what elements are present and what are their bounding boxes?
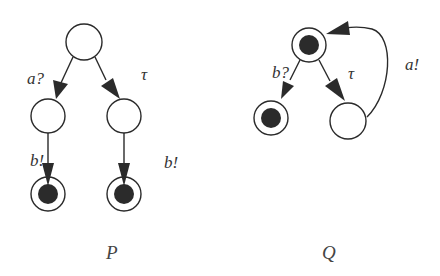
state-p1 xyxy=(31,99,65,133)
diagram-canvas xyxy=(0,0,440,276)
edge-p0-p2 xyxy=(95,57,120,99)
edge-label-q0-q2: τ xyxy=(348,65,354,82)
state-p0 xyxy=(66,24,102,60)
diagram-p xyxy=(31,24,141,211)
edge-label-p0-p2: τ xyxy=(141,66,147,83)
edge-label-q0-q1: b? xyxy=(272,64,289,81)
edge-q2-q0 xyxy=(326,21,388,117)
state-q1 xyxy=(254,101,288,135)
edge-label-q2-q0: a! xyxy=(405,56,419,73)
edge-label-p2-p4: b! xyxy=(164,154,178,171)
diagram-caption-q: Q xyxy=(322,243,336,262)
diagram-caption-p: P xyxy=(106,243,118,262)
edge-label-p1-p3: b! xyxy=(30,152,44,169)
edge-label-p0-p1: a? xyxy=(27,70,44,87)
edge-q0-q2 xyxy=(319,60,345,101)
edge-p0-p1 xyxy=(53,57,73,99)
state-q0 xyxy=(292,28,326,62)
state-q2 xyxy=(330,103,366,139)
state-p2 xyxy=(107,99,141,133)
